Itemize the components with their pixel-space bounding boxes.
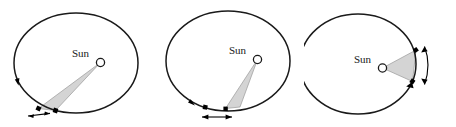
sun-marker: [253, 55, 261, 63]
sun-marker: [96, 58, 104, 66]
orbit-panel-right: Sun: [304, 0, 456, 127]
orbit-ellipse: [14, 13, 138, 113]
kepler-second-law-figure: Sun Sun: [0, 0, 456, 127]
orbit-panel-left: Sun: [0, 0, 152, 127]
sun-label: Sun: [229, 44, 247, 56]
swept-area-wedge: [383, 50, 417, 82]
arc-endpoint-marker-end: [223, 107, 227, 111]
orbit-ellipse: [166, 11, 290, 111]
arc-endpoint-marker-start: [35, 105, 41, 111]
arc-length-indicator: [421, 47, 428, 85]
arc-length-indicator: [28, 112, 50, 119]
arc-endpoint-marker-start: [203, 105, 208, 110]
sun-label: Sun: [354, 53, 372, 65]
orbit-panel-center: Sun: [152, 0, 304, 127]
sun-marker: [378, 64, 386, 72]
sun-label: Sun: [72, 47, 90, 59]
orbit-direction-arrowhead: [15, 78, 20, 86]
swept-area-wedge: [226, 60, 258, 109]
arc-length-indicator: [202, 115, 232, 120]
swept-area-wedge: [39, 63, 101, 111]
